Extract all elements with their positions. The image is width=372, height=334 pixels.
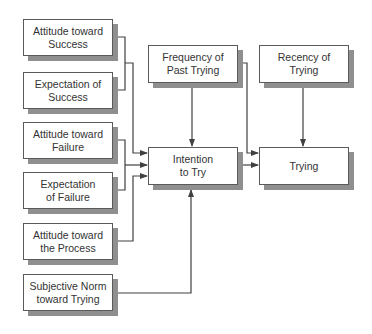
node-label: Frequency of <box>162 51 223 64</box>
node-label: Past Trying <box>167 64 220 77</box>
node-label: Failure <box>52 141 84 154</box>
node-expectation-of-failure: Expectation of Failure <box>23 172 113 209</box>
diagram-canvas: Attitude toward Success Expectation of S… <box>0 0 372 334</box>
node-attitude-toward-success: Attitude toward Success <box>23 19 113 56</box>
node-subjective-norm: Subjective Norm toward Trying <box>23 274 113 311</box>
node-label: Attitude toward <box>33 128 103 141</box>
node-expectation-of-success: Expectation of Success <box>23 72 113 109</box>
node-intention-to-try: Intention to Try <box>148 147 238 185</box>
node-label: to Try <box>180 166 206 179</box>
node-label: of Failure <box>46 191 90 204</box>
node-attitude-toward-failure: Attitude toward Failure <box>23 122 113 159</box>
node-label: Trying <box>290 64 319 77</box>
node-frequency-of-past-trying: Frequency of Past Trying <box>148 45 238 83</box>
node-label: Success <box>48 38 88 51</box>
node-label: Attitude toward <box>33 229 103 242</box>
node-label: Attitude toward <box>33 25 103 38</box>
node-label: Expectation of <box>35 78 102 91</box>
edge-process <box>117 176 147 241</box>
node-label: Subjective Norm <box>29 280 106 293</box>
node-trying: Trying <box>259 147 349 185</box>
edge-failure-pair <box>117 140 125 190</box>
node-label: Recency of <box>278 51 331 64</box>
node-label: Intention <box>173 153 213 166</box>
edge-frequency-trying <box>242 63 258 153</box>
node-attitude-toward-process: Attitude toward the Process <box>23 223 113 260</box>
node-label: the Process <box>40 242 95 255</box>
node-label: Trying <box>290 160 319 173</box>
node-label: toward Trying <box>36 293 99 306</box>
node-recency-of-trying: Recency of Trying <box>259 45 349 83</box>
edge-success-pair <box>117 37 125 90</box>
node-label: Expectation <box>41 178 96 191</box>
node-label: Success <box>48 91 88 104</box>
